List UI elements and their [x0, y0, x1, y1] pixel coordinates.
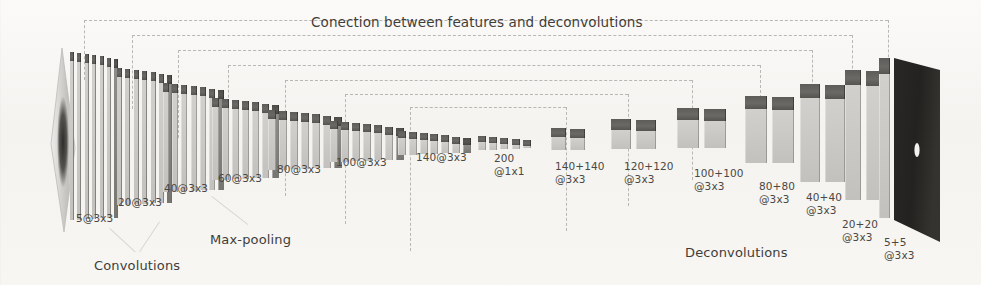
- input-image-plane: [42, 44, 82, 236]
- conv-block-g3: [181, 85, 187, 191]
- caption-max-pooling: Max-pooling: [210, 232, 291, 247]
- block-front-face: [398, 138, 406, 155]
- block-front-face: [125, 78, 130, 205]
- block-front-face: [232, 109, 239, 179]
- block-label-g9: 140+140 @3x3: [555, 160, 605, 185]
- block-front-face: [301, 122, 309, 169]
- conv-block-g10: [611, 119, 631, 149]
- block-top-face: [114, 59, 118, 68]
- leader-pool: [211, 196, 248, 225]
- skip-6-horizontal: [345, 94, 628, 95]
- conv-block-g3: [191, 86, 197, 191]
- block-front-face: [100, 65, 104, 218]
- block-label-g10: 120+120 @3x3: [624, 160, 674, 185]
- caption-deconvolutions: Deconvolutions: [685, 245, 788, 260]
- conv-block-g4: [252, 102, 259, 178]
- block-front-face: [611, 130, 631, 149]
- conv-block-g1: [85, 54, 89, 219]
- block-front-face: [478, 142, 486, 150]
- block-top-face: [191, 86, 197, 95]
- conv-block-g5: [301, 113, 309, 169]
- conv-block-g8: [512, 139, 520, 149]
- conv-block-g4: [222, 99, 229, 180]
- block-top-face: [825, 85, 845, 99]
- block-top-face: [704, 109, 726, 121]
- block-front-face: [70, 61, 74, 220]
- block-front-face: [117, 77, 122, 205]
- conv-block-g9: [570, 129, 585, 150]
- block-label-g6: 100@3x3: [336, 156, 387, 169]
- conv-block-g4: [232, 100, 239, 179]
- block-top-face: [551, 128, 566, 137]
- block-front-face: [677, 120, 699, 148]
- block-top-face: [70, 52, 74, 61]
- block-front-face: [212, 107, 219, 180]
- block-front-face: [107, 67, 111, 219]
- block-top-face: [172, 84, 178, 93]
- block-top-face: [363, 124, 371, 132]
- block-front-face: [181, 94, 187, 191]
- conv-block-g2: [151, 72, 156, 203]
- conv-block-g2: [117, 68, 122, 205]
- block-label-g8: 200 @1x1: [494, 152, 524, 177]
- conv-block-g11: [677, 108, 699, 148]
- conv-block-g3: [163, 83, 169, 192]
- block-front-face: [252, 111, 259, 178]
- block-front-face: [312, 123, 320, 168]
- conv-block-g1: [92, 55, 96, 219]
- caption-convolutions: Convolutions: [94, 258, 180, 273]
- block-label-g4: 60@3x3: [218, 172, 262, 185]
- block-front-face: [142, 80, 147, 204]
- block-top-face: [441, 135, 449, 142]
- block-front-face: [172, 93, 178, 192]
- block-front-face: [134, 79, 139, 204]
- block-front-face: [879, 74, 890, 218]
- block-front-face: [500, 144, 508, 149]
- block-top-face: [279, 111, 287, 120]
- block-top-face: [268, 110, 276, 119]
- conv-block-g8: [500, 138, 508, 149]
- conv-block-g10: [636, 120, 656, 149]
- block-top-face: [200, 87, 206, 96]
- skip-2-horizontal: [132, 35, 852, 36]
- block-top-face: [636, 120, 656, 131]
- block-top-face: [290, 112, 298, 121]
- conv-block-g12: [772, 97, 794, 163]
- block-front-face: [191, 95, 197, 191]
- block-label-g13: 40+40 @3x3: [806, 191, 842, 216]
- block-front-face: [222, 108, 229, 180]
- block-top-face: [85, 54, 89, 63]
- block-front-face: [745, 109, 767, 163]
- block-top-face: [117, 68, 122, 77]
- block-top-face: [92, 55, 96, 64]
- block-top-face: [330, 121, 338, 129]
- block-top-face: [209, 89, 215, 98]
- block-label-g15: 5+5 @3x3: [884, 236, 914, 261]
- block-top-face: [77, 53, 81, 62]
- block-top-face: [430, 134, 438, 141]
- block-top-face: [151, 72, 156, 81]
- block-top-face: [772, 97, 794, 110]
- block-front-face: [77, 62, 81, 220]
- conv-block-g2: [142, 71, 147, 204]
- skip-4-horizontal: [228, 65, 760, 66]
- block-front-face: [290, 121, 298, 169]
- conv-block-g9: [551, 128, 566, 150]
- block-label-g12: 80+80 @3x3: [759, 180, 795, 205]
- skip-7-horizontal: [410, 107, 566, 108]
- block-top-face: [181, 85, 187, 94]
- block-front-face: [85, 63, 89, 219]
- block-top-face: [125, 69, 130, 78]
- block-front-face: [512, 145, 520, 149]
- conv-block-g15: [879, 58, 890, 218]
- block-front-face: [268, 119, 276, 170]
- block-front-face: [825, 99, 845, 182]
- conv-block-g3: [200, 87, 206, 190]
- block-front-face: [845, 85, 861, 200]
- block-top-face: [879, 58, 890, 74]
- block-top-face: [218, 90, 224, 99]
- conv-block-g12: [745, 96, 767, 163]
- conv-block-g1: [100, 56, 104, 218]
- block-top-face: [163, 83, 169, 92]
- block-top-face: [463, 138, 471, 145]
